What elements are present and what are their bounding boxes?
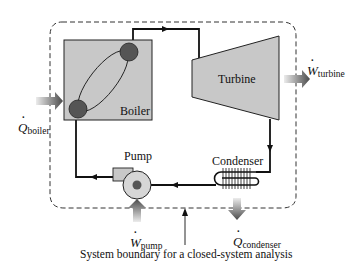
turbine-label: Turbine: [218, 73, 256, 85]
boiler-drum-top: [120, 43, 138, 61]
flow-arrow-icon: [162, 26, 169, 32]
w-pump-arrow-icon: [128, 199, 146, 222]
q-condenser-arrow-icon: [228, 198, 246, 220]
q-boiler-subscript: boiler: [27, 126, 49, 136]
pipe-pump-to-boiler: [76, 120, 114, 177]
condenser-label: Condenser: [212, 155, 263, 167]
power-cycle-diagram: [0, 0, 360, 269]
pump-label: Pump: [124, 150, 152, 162]
w-turbine-label: Wturbine: [307, 62, 345, 80]
q-condenser-symbol: Q: [233, 234, 242, 249]
w-turbine-subscript: turbine: [318, 69, 345, 79]
q-boiler-symbol: Q: [18, 120, 27, 135]
flow-arrow-icon: [171, 182, 178, 188]
pump-impeller: [133, 181, 142, 190]
w-turbine-symbol: W: [307, 63, 318, 78]
flow-arrow-icon: [90, 174, 97, 180]
flow-arrow-icon: [267, 145, 273, 152]
boiler-label: Boiler: [120, 105, 150, 117]
pump: [113, 168, 151, 199]
boiler-drum-bottom: [69, 100, 87, 118]
q-boiler-label: Qboiler: [18, 119, 50, 137]
system-boundary-caption: System boundary for a closed-system anal…: [80, 249, 292, 261]
boundary-pointer-arrow-icon: [182, 208, 188, 216]
condenser: [215, 168, 259, 189]
